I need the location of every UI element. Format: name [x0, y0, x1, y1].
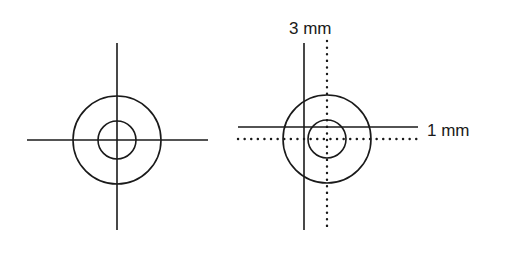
right-target: 3 mm 1 mm	[238, 19, 470, 230]
left-target	[27, 43, 208, 230]
vertical-offset-label: 3 mm	[289, 19, 332, 38]
diagram-canvas: 3 mm 1 mm	[0, 0, 506, 257]
horizontal-offset-label: 1 mm	[427, 121, 470, 140]
